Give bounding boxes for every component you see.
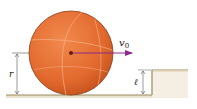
step-height-dimension: ℓ [134, 70, 151, 94]
ground [6, 95, 154, 98]
velocity-label: v0 [119, 37, 129, 50]
center-dot [69, 51, 73, 55]
step-height-label: ℓ [134, 77, 138, 87]
radius-dimension: r [9, 54, 19, 94]
ball-step-diagram: v0 r ℓ [0, 0, 197, 109]
radius-label: r [9, 69, 14, 79]
step [152, 70, 188, 98]
